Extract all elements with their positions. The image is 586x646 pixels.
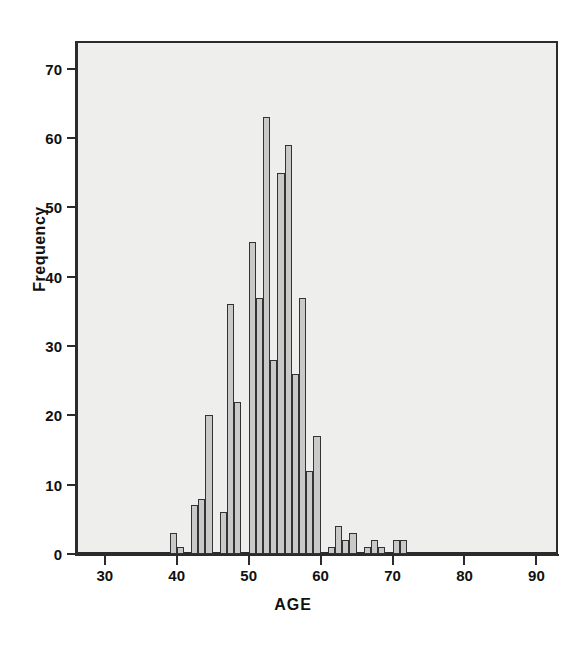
histogram-bar [205,415,212,554]
y-axis-tick-label: 20 [20,408,62,423]
histogram-bar [277,173,284,554]
histogram-bar [306,471,313,554]
histogram-bar [220,512,227,554]
y-axis-tick [67,414,76,416]
x-axis-tick-label: 50 [227,568,271,583]
y-axis-title: Frequency [31,149,49,349]
x-axis-tick-label: 30 [83,568,127,583]
x-axis-tick [176,556,178,565]
y-axis-line [75,41,77,556]
histogram-bar [292,374,299,554]
y-axis-tick [67,345,76,347]
y-axis-tick [67,276,76,278]
x-axis-tick-label: 90 [514,568,558,583]
x-axis-tick [320,556,322,565]
y-axis-tick-label: 10 [20,478,62,493]
x-axis-tick-label: 80 [442,568,486,583]
histogram-bar [234,402,241,555]
histogram-bar [191,505,198,554]
histogram-bar [285,145,292,554]
y-axis-tick [67,137,76,139]
x-axis-tick [463,556,465,565]
x-axis-tick [535,556,537,565]
histogram-bar [328,547,335,554]
bars-layer [76,41,558,554]
histogram-bar [393,540,400,554]
y-axis-tick-label: 70 [20,62,62,77]
x-axis-tick [392,556,394,565]
histogram-bar [378,547,385,554]
x-axis-tick-label: 70 [371,568,415,583]
histogram-bar [227,304,234,554]
x-axis-tick-label: 40 [155,568,199,583]
histogram-bar [177,547,184,554]
y-axis-tick [67,206,76,208]
x-axis-tick [248,556,250,565]
histogram-bar [249,242,256,554]
histogram-bar [299,298,306,555]
histogram-bar [400,540,407,554]
histogram-figure: 010203040506070 Frequency 30405060708090… [0,0,586,646]
histogram-bar [342,540,349,554]
x-axis-tick-label: 60 [299,568,343,583]
histogram-bar [371,540,378,554]
histogram-bar [349,533,356,554]
histogram-bar [263,117,270,554]
histogram-bar [313,436,320,554]
histogram-bar [170,533,177,554]
x-axis-title: AGE [0,596,586,614]
y-axis-tick [67,484,76,486]
histogram-bar [335,526,342,554]
y-axis-tick [67,68,76,70]
y-axis-tick-label: 0 [20,547,62,562]
histogram-bar [364,547,371,554]
x-axis-tick [104,556,106,565]
x-axis-line [75,554,559,556]
histogram-bar [270,360,277,554]
y-axis-tick-label: 60 [20,131,62,146]
histogram-bar [198,499,205,554]
histogram-bar [256,298,263,555]
